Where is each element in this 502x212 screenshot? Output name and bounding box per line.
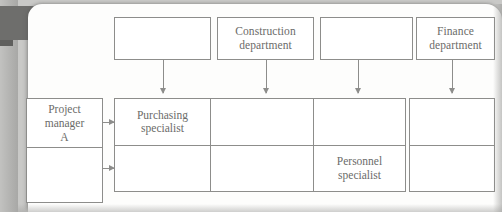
arrow-down-icon-3 xyxy=(358,60,359,93)
grid-cell-purchasing-specialist: Purchasing specialist xyxy=(114,98,211,146)
grid-cell-r2c1 xyxy=(114,145,211,192)
grid-cell-personnel-specialist-label: Personnel specialist xyxy=(337,155,382,182)
arrow-down-icon-1 xyxy=(163,60,164,93)
arrow-down-icon-2 xyxy=(266,60,267,93)
arrow-right-icon-1 xyxy=(103,122,114,123)
organization-chart-screenshot: Construction department Finance departme… xyxy=(0,0,502,212)
project-manager-a-empty-cell xyxy=(27,148,102,202)
grid-cell-r2c2 xyxy=(210,145,314,192)
grid-cell-r1c3 xyxy=(313,98,406,146)
project-manager-a-title-cell: Project manager A xyxy=(27,99,102,148)
arrow-down-icon-4 xyxy=(452,60,453,93)
department-box-construction-label: Construction department xyxy=(235,25,296,52)
grid-cell-r2c4 xyxy=(409,145,495,192)
grid-cell-personnel-specialist: Personnel specialist xyxy=(313,145,406,192)
grid-cell-r1c4 xyxy=(409,98,495,146)
project-manager-a-box: Project manager A xyxy=(26,98,103,203)
department-box-1 xyxy=(114,17,211,60)
grid-cell-r1c2 xyxy=(210,98,314,146)
department-box-finance-label: Finance department xyxy=(429,25,482,52)
department-box-construction: Construction department xyxy=(217,17,314,60)
project-manager-a-label: Project manager A xyxy=(45,102,85,144)
grid-cell-purchasing-specialist-label: Purchasing specialist xyxy=(137,109,188,136)
arrow-right-icon-2 xyxy=(103,168,114,169)
department-box-finance: Finance department xyxy=(416,17,495,60)
department-box-3 xyxy=(320,17,413,60)
